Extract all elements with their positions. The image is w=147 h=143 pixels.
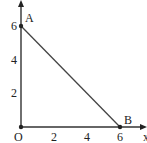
y-tick-2: 2 <box>11 86 17 100</box>
point-b-label: B <box>124 113 132 127</box>
x-tick-2: 2 <box>51 130 57 143</box>
point-b <box>118 125 122 129</box>
x-axis-label: x <box>143 130 147 143</box>
x-tick-6: 6 <box>117 130 123 143</box>
y-axis-arrow-icon <box>18 0 24 7</box>
y-tick-6: 6 <box>11 19 17 33</box>
point-a <box>19 24 23 28</box>
origin-label: O <box>14 130 23 143</box>
point-a-label: A <box>25 11 34 25</box>
x-tick-4: 4 <box>84 130 90 143</box>
y-tick-4: 4 <box>11 53 17 67</box>
coordinate-plot: A B O 6 4 2 2 4 6 x <box>0 0 147 143</box>
segment-ab <box>21 26 120 127</box>
point-o <box>19 125 23 129</box>
